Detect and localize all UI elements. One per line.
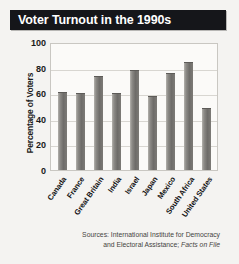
y-tick-label: 80 bbox=[20, 64, 46, 74]
x-axis-labels: CanadaFranceGreat BritainIndiaIsraelJapa… bbox=[50, 173, 218, 233]
source-line-2-prefix: and Electoral Assistance; bbox=[103, 241, 181, 248]
x-axis-label: India bbox=[106, 175, 123, 194]
source-line-2-italic: Facts on File bbox=[181, 241, 220, 248]
source-note: Sources: International Institute for Dem… bbox=[20, 230, 220, 249]
x-label-slot: Israel bbox=[129, 173, 138, 233]
bar-series bbox=[51, 44, 217, 170]
x-label-slot: Great Britain bbox=[93, 173, 102, 233]
x-label-slot: India bbox=[111, 173, 120, 233]
bar-great-britain bbox=[94, 76, 103, 171]
bar-mexico bbox=[166, 73, 175, 170]
chart-title-bar: Voter Turnout in the 1990s bbox=[10, 10, 226, 30]
chart-figure: Voter Turnout in the 1990s Percentage of… bbox=[0, 0, 239, 264]
y-tick-label: 0 bbox=[20, 166, 46, 176]
x-label-slot: Japan bbox=[148, 173, 157, 233]
chart-region: Percentage of Voters 100 80 60 40 20 0 C… bbox=[0, 34, 239, 234]
y-tick-label: 20 bbox=[20, 140, 46, 150]
y-tick-label: 40 bbox=[20, 115, 46, 125]
source-line-1: Sources: International Institute for Dem… bbox=[82, 231, 220, 238]
bar-israel bbox=[130, 70, 139, 170]
x-axis-label: Israel bbox=[123, 175, 141, 196]
bar-france bbox=[76, 93, 85, 170]
page-title: Voter Turnout in the 1990s bbox=[18, 13, 171, 27]
bar-united-states bbox=[202, 108, 211, 170]
y-axis-ticks: 100 80 60 40 20 0 bbox=[16, 34, 46, 174]
plot-area bbox=[50, 43, 218, 171]
bar-canada bbox=[58, 92, 67, 170]
x-axis-label: Canada bbox=[46, 175, 69, 202]
bar-south-africa bbox=[184, 62, 193, 170]
x-label-slot: Canada bbox=[57, 173, 66, 233]
y-tick-label: 100 bbox=[20, 38, 46, 48]
bar-japan bbox=[148, 96, 157, 170]
y-tick-label: 60 bbox=[20, 89, 46, 99]
bar-india bbox=[112, 93, 121, 170]
x-label-slot: United States bbox=[202, 173, 211, 233]
